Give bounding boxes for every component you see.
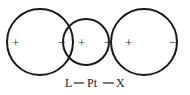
middle-lobe bbox=[63, 19, 109, 65]
ligand-label: L bbox=[65, 77, 72, 89]
right-lobe bbox=[111, 9, 177, 75]
middle-lobe-minus: − bbox=[104, 36, 111, 49]
left-lobe-minus: − bbox=[58, 36, 65, 49]
halide-label: X bbox=[116, 77, 125, 89]
left-lobe-plus: + bbox=[12, 36, 19, 49]
metal-label: Pt bbox=[87, 77, 97, 89]
middle-lobe-plus: + bbox=[78, 36, 85, 49]
right-lobe-plus: + bbox=[125, 36, 132, 49]
right-lobe-minus: − bbox=[169, 36, 176, 49]
